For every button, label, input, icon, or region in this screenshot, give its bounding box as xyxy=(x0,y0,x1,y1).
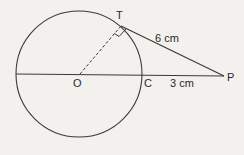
label-c: C xyxy=(144,77,152,89)
label-cp-length: 3 cm xyxy=(170,77,194,89)
label-o: O xyxy=(73,77,82,89)
right-angle-marker xyxy=(115,29,127,37)
label-p: P xyxy=(227,71,234,83)
label-t: T xyxy=(116,9,123,21)
geometry-diagram: T O C P 6 cm 3 cm xyxy=(0,0,244,155)
label-tp-length: 6 cm xyxy=(155,32,179,44)
line-diameter-op xyxy=(16,74,224,76)
